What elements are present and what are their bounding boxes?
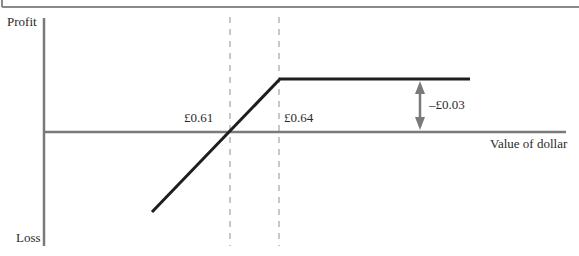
payoff-diagram [0,0,579,256]
payoff-line [152,79,470,212]
frame-remnant [2,0,579,7]
strike-label-1: £0.61 [184,111,213,125]
cap-annotation-label: –£0.03 [429,98,465,112]
y-axis-top-label: Profit [7,15,37,29]
strike-label-2: £0.64 [284,111,313,125]
double-arrow-icon [415,81,425,130]
x-axis-label: Value of dollar [490,137,567,151]
y-axis-bottom-label: Loss [16,231,41,245]
